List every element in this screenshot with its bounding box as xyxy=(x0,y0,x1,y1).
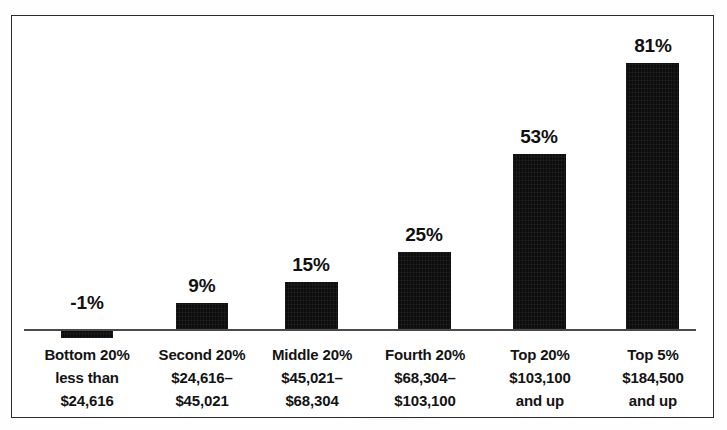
chart-frame: -1% 9% 15% 25% 53% 81% Bottom 20% less t… xyxy=(11,15,714,418)
bar-middle-20[interactable] xyxy=(285,282,338,329)
bar-value-label: 53% xyxy=(464,126,614,148)
bar-second-20[interactable] xyxy=(176,303,228,329)
bar-fourth-20[interactable] xyxy=(398,252,451,329)
bar-top-20[interactable] xyxy=(513,154,566,329)
zero-axis-line xyxy=(24,329,696,331)
x-axis-label-top-5: Top 5% $184,500 and up xyxy=(578,343,727,412)
category-name: Top 5% xyxy=(578,343,727,366)
bar-bottom-20[interactable] xyxy=(61,331,113,338)
bar-value-label: 25% xyxy=(349,224,499,246)
bar-value-label: 81% xyxy=(578,35,727,57)
bar-top-5[interactable] xyxy=(626,63,679,329)
scanned-page: -1% 9% 15% 25% 53% 81% Bottom 20% less t… xyxy=(0,0,727,430)
category-range-line1: $184,500 xyxy=(578,366,727,389)
category-range-line2: and up xyxy=(578,389,727,412)
bar-value-label: 9% xyxy=(127,275,277,297)
bar-value-label: 15% xyxy=(236,254,386,276)
plot-area: -1% 9% 15% 25% 53% 81% Bottom 20% less t… xyxy=(12,16,713,417)
